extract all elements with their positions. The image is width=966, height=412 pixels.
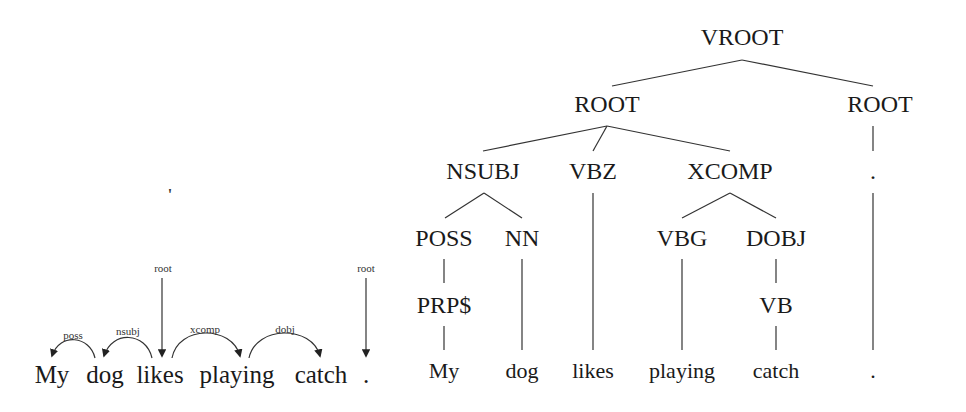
figure-canvas: ' root root poss nsubj xcomp dobj My dog… bbox=[0, 0, 966, 412]
leaf-my: My bbox=[429, 358, 460, 383]
dep-word-likes: likes bbox=[136, 361, 183, 388]
arc-poss bbox=[52, 340, 95, 358]
dep-word-catch: catch bbox=[295, 361, 348, 388]
arc-label-nsubj: nsubj bbox=[116, 325, 140, 337]
leaf-dog: dog bbox=[506, 358, 539, 383]
edge-xcomp-dobj bbox=[730, 193, 776, 218]
node-prp: PRP$ bbox=[417, 292, 472, 318]
node-vbz: VBZ bbox=[569, 158, 617, 184]
edge-root1-nsubj bbox=[483, 126, 607, 151]
root-label-likes: root bbox=[154, 262, 172, 274]
dep-word-my: My bbox=[35, 361, 70, 388]
leaf-period: . bbox=[870, 358, 876, 383]
node-vbg: VBG bbox=[657, 225, 708, 251]
node-poss: POSS bbox=[415, 225, 472, 251]
node-root-main: ROOT bbox=[574, 91, 640, 117]
constituency-tree: VROOT ROOT ROOT NSUBJ VBZ XCOMP . POSS N… bbox=[415, 24, 913, 383]
edge-vroot-root2 bbox=[742, 60, 873, 86]
arc-label-poss: poss bbox=[63, 329, 83, 341]
node-nsubj: NSUBJ bbox=[446, 158, 519, 184]
root-label-period: root bbox=[357, 262, 375, 274]
leaf-catch: catch bbox=[753, 358, 799, 383]
arc-dobj bbox=[249, 333, 320, 358]
arc-xcomp bbox=[172, 333, 240, 358]
edge-root1-vbz bbox=[593, 126, 607, 151]
arc-nsubj bbox=[104, 337, 152, 358]
leaf-playing: playing bbox=[649, 358, 715, 383]
node-nn: NN bbox=[505, 225, 540, 251]
arc-label-xcomp: xcomp bbox=[190, 323, 220, 335]
edge-vroot-root1 bbox=[612, 60, 742, 86]
edge-root1-xcomp bbox=[607, 126, 730, 151]
dep-word-period: . bbox=[363, 361, 369, 388]
dependency-diagram: ' root root poss nsubj xcomp dobj My dog… bbox=[35, 186, 375, 388]
arc-label-dobj: dobj bbox=[275, 323, 295, 335]
node-vroot: VROOT bbox=[701, 24, 784, 50]
edge-xcomp-vbg bbox=[682, 193, 730, 218]
dep-word-playing: playing bbox=[200, 361, 275, 388]
node-dobj: DOBJ bbox=[746, 225, 806, 251]
edge-nsubj-nn bbox=[484, 193, 522, 218]
node-punct: . bbox=[870, 158, 876, 184]
node-xcomp: XCOMP bbox=[687, 158, 772, 184]
edge-nsubj-poss bbox=[445, 193, 484, 218]
leaf-likes: likes bbox=[572, 358, 614, 383]
node-root-punct: ROOT bbox=[847, 91, 913, 117]
node-vb: VB bbox=[759, 292, 792, 318]
dep-word-dog: dog bbox=[86, 361, 124, 388]
stray-mark: ' bbox=[168, 186, 172, 203]
